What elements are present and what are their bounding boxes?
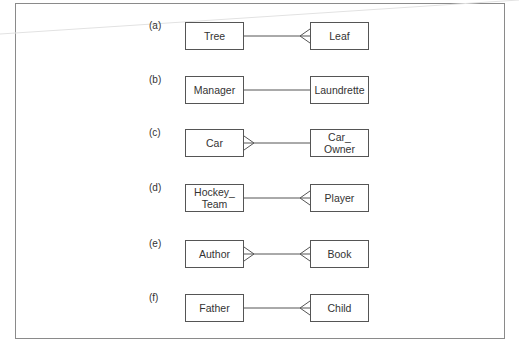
relationship-row-c: (c) Car Car_ Owner: [0, 123, 519, 163]
crows-foot-many-right-icon: [0, 178, 519, 218]
relationship-row-a: (a) Tree Leaf: [0, 16, 519, 56]
relationship-row-e: (e) Author Book: [0, 234, 519, 274]
crows-foot-many-to-many-icon: [0, 234, 519, 274]
relationship-row-d: (d) Hockey_ Team Player: [0, 178, 519, 218]
one-to-one-line-icon: [0, 70, 519, 110]
relationship-row-f: (f) Father Child: [0, 288, 519, 328]
crows-foot-many-left-icon: [0, 123, 519, 163]
crows-foot-many-right-icon: [0, 16, 519, 56]
relationship-row-b: (b) Manager Laundrette: [0, 70, 519, 110]
crows-foot-many-right-icon: [0, 288, 519, 328]
